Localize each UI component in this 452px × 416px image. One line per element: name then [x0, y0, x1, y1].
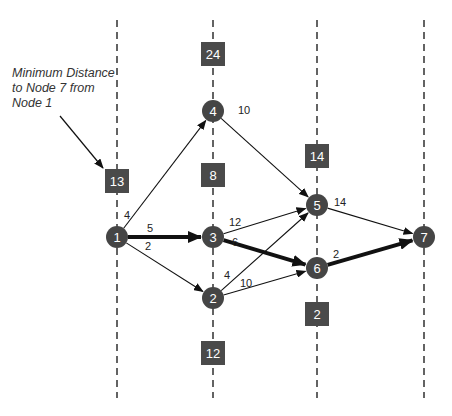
edge-weight-3-5: 12: [229, 216, 241, 228]
node-1: 1: [106, 226, 128, 248]
edge-5-7: [328, 208, 413, 233]
edge-weight-3-6: 6: [232, 236, 238, 248]
annotation-arrow: [60, 116, 103, 168]
node-label: 3: [209, 230, 216, 245]
distance-box-value: 8: [209, 168, 216, 183]
node-4: 4: [202, 100, 224, 122]
annotation-label: Minimum Distance to Node 7 from Node 1: [12, 66, 115, 111]
distance-box: 13: [105, 169, 129, 193]
edge-6-7: [328, 240, 413, 265]
edges: 45210126410142: [124, 104, 413, 295]
edge-1-2: [126, 243, 203, 292]
distance-box-value: 2: [313, 307, 320, 322]
stage-divider-lines: [117, 20, 424, 398]
distance-box-value: 12: [206, 346, 220, 361]
node-label: 4: [209, 104, 216, 119]
edge-weight-2-5: 4: [224, 269, 230, 281]
distance-box: 12: [201, 341, 225, 365]
node-label: 5: [313, 198, 320, 213]
node-label: 7: [420, 230, 427, 245]
edge-weight-1-3: 5: [147, 222, 153, 234]
node-3: 3: [202, 226, 224, 248]
distance-box: 2: [305, 302, 329, 326]
node-label: 2: [209, 291, 216, 306]
edge-weight-1-4: 4: [124, 209, 130, 221]
distance-box-value: 24: [206, 47, 220, 62]
edge-weight-2-6: 10: [240, 277, 252, 289]
node-6: 6: [306, 257, 328, 279]
distance-box: 24: [201, 42, 225, 66]
edge-weight-6-7: 2: [333, 248, 339, 260]
edge-4-5: [221, 118, 308, 197]
distance-box: 14: [305, 144, 329, 168]
node-7: 7: [413, 226, 435, 248]
edge-weight-5-7: 14: [334, 196, 346, 208]
node-5: 5: [306, 194, 328, 216]
node-label: 6: [313, 261, 320, 276]
distance-box-value: 13: [110, 174, 124, 189]
edge-1-4: [124, 121, 206, 229]
edge-weight-4-5: 10: [238, 104, 250, 116]
edge-2-6: [224, 271, 306, 295]
edge-weight-1-2: 2: [145, 240, 151, 252]
network-diagram: 45210126410142 1324812142 1432567: [0, 0, 452, 416]
distance-box-value: 14: [310, 149, 324, 164]
distance-box: 8: [201, 163, 225, 187]
annotation-arrow-line: [60, 116, 103, 168]
nodes: 1432567: [106, 100, 435, 309]
node-label: 1: [113, 230, 120, 245]
distance-boxes: 1324812142: [105, 42, 329, 365]
node-2: 2: [202, 287, 224, 309]
